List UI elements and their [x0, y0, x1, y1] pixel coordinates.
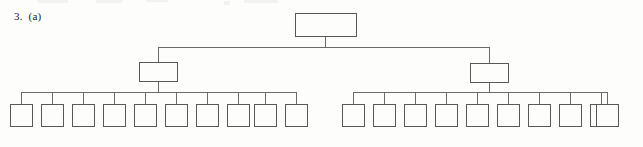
leaf-node-0-7 — [228, 105, 250, 127]
diagram-page: 3. (a) — [0, 0, 643, 147]
leaf-node-1-4 — [467, 105, 489, 127]
leaf-node-1-6 — [529, 105, 551, 127]
leaf-node-1-5 — [498, 105, 520, 127]
leaf-node-0-3 — [104, 105, 126, 127]
leaf-node-0-0 — [11, 105, 33, 127]
leaf-node-0-2 — [73, 105, 95, 127]
root-node — [296, 14, 357, 37]
leaf-node-1-1 — [374, 105, 396, 127]
branch-node-right — [471, 64, 509, 83]
node-boxes — [11, 14, 619, 127]
leaf-node-1-0 — [343, 105, 365, 127]
tree-diagram — [0, 0, 643, 147]
connector-lines — [21, 36, 607, 104]
leaf-node-0-6 — [197, 105, 219, 127]
leaf-node-0-5 — [166, 105, 188, 127]
leaf-node-0-4 — [135, 105, 157, 127]
branch-node-left — [140, 63, 178, 82]
leaf-node-1-3 — [436, 105, 458, 127]
leaf-node-0-8 — [255, 105, 277, 127]
leaf-node-1-9 — [597, 105, 619, 127]
leaf-node-0-1 — [42, 105, 64, 127]
leaf-node-1-2 — [405, 105, 427, 127]
leaf-node-1-7 — [560, 105, 582, 127]
leaf-node-0-9 — [286, 105, 308, 127]
